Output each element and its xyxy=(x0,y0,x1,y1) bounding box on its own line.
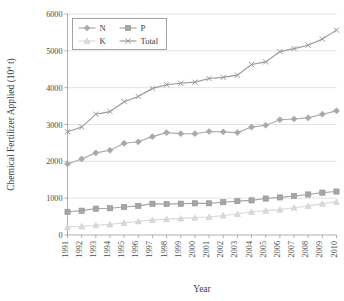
series-marker-N-1994 xyxy=(107,147,113,153)
series-marker-N-2002 xyxy=(220,129,226,135)
y-tick-label-4000: 4000 xyxy=(46,84,62,93)
series-marker-P-2000 xyxy=(192,201,197,206)
series-marker-P-2003 xyxy=(235,199,240,204)
series-marker-Total-2010 xyxy=(334,28,339,33)
y-axis-title: Chemical Fertilizer Applied (104 t) xyxy=(5,58,17,191)
series-marker-P-2006 xyxy=(277,195,282,200)
y-tick-label-3000: 3000 xyxy=(46,121,62,130)
y-tick-label-6000: 6000 xyxy=(46,10,62,19)
x-tick-label-1999: 1999 xyxy=(174,241,183,257)
series-marker-P-1998 xyxy=(164,201,169,206)
x-axis-title: Year xyxy=(193,284,211,294)
series-marker-P-2007 xyxy=(291,193,296,198)
x-tick-label-2008: 2008 xyxy=(301,241,310,257)
chemical-fertilizer-line-chart: 0100020003000400050006000 19911992199319… xyxy=(0,0,344,301)
x-tick-label-2005: 2005 xyxy=(259,241,268,257)
legend-label-P: P xyxy=(141,23,146,33)
y-tick-label-0: 0 xyxy=(58,231,62,240)
y-axis-title-text: Chemical Fertilizer Applied (104 t) xyxy=(5,58,17,191)
series-marker-P-2010 xyxy=(334,189,339,194)
legend-label-N: N xyxy=(100,23,107,33)
series-marker-P-2009 xyxy=(320,190,325,195)
legend-label-K: K xyxy=(100,36,107,46)
series-marker-N-1996 xyxy=(135,139,141,145)
y-tick-label-1000: 1000 xyxy=(46,194,62,203)
series-marker-P-1997 xyxy=(150,201,155,206)
series-N xyxy=(64,108,339,167)
y-tick-label-2000: 2000 xyxy=(46,157,62,166)
x-axis-tick-labels: 1991199219931994199519961997199819992000… xyxy=(61,241,339,257)
series-marker-N-2006 xyxy=(277,117,283,123)
series-marker-P-2002 xyxy=(221,200,226,205)
series-marker-N-1995 xyxy=(121,140,127,146)
x-tick-label-1994: 1994 xyxy=(103,241,112,257)
series-marker-N-2010 xyxy=(333,108,339,114)
x-tick-label-2009: 2009 xyxy=(315,241,324,257)
x-tick-label-2004: 2004 xyxy=(245,241,254,257)
y-tick-label-5000: 5000 xyxy=(46,47,62,56)
x-tick-label-1998: 1998 xyxy=(160,241,169,257)
data-series xyxy=(64,28,339,230)
series-marker-P-2008 xyxy=(306,192,311,197)
series-marker-N-2003 xyxy=(234,130,240,136)
x-tick-label-1996: 1996 xyxy=(131,241,140,257)
series-marker-P-2005 xyxy=(263,196,268,201)
series-P xyxy=(65,189,339,214)
series-marker-P-1992 xyxy=(79,208,84,213)
legend-label-Total: Total xyxy=(141,36,159,46)
x-tick-label-2007: 2007 xyxy=(287,241,296,257)
series-marker-N-2005 xyxy=(263,122,269,128)
x-tick-label-1995: 1995 xyxy=(117,241,126,257)
y-axis-title-tail: t) xyxy=(6,58,17,66)
series-marker-P-1993 xyxy=(93,206,98,211)
x-tick-label-2006: 2006 xyxy=(273,241,282,257)
series-marker-Total-1995 xyxy=(122,99,127,104)
x-tick-label-1993: 1993 xyxy=(89,241,98,257)
series-marker-N-1999 xyxy=(178,131,184,137)
chart-canvas: 0100020003000400050006000 19911992199319… xyxy=(0,0,344,301)
chart-legend[interactable]: NPKTotal xyxy=(73,19,167,50)
series-marker-P-1999 xyxy=(178,201,183,206)
series-marker-N-2000 xyxy=(192,131,198,137)
y-axis-title-base: Chemical Fertilizer Applied (10 xyxy=(6,69,17,190)
x-tick-label-2010: 2010 xyxy=(330,241,339,257)
series-marker-N-1991 xyxy=(64,161,70,167)
series-marker-P-1994 xyxy=(107,206,112,211)
series-marker-N-2004 xyxy=(248,124,254,130)
series-marker-N-2009 xyxy=(319,111,325,117)
y-axis-tick-labels: 0100020003000400050006000 xyxy=(46,10,62,240)
series-marker-P-1995 xyxy=(122,204,127,209)
series-marker-N-2001 xyxy=(206,128,212,134)
series-marker-P-2001 xyxy=(206,201,211,206)
x-tick-label-1997: 1997 xyxy=(145,241,154,257)
series-marker-N-1993 xyxy=(93,150,99,156)
series-marker-N-2007 xyxy=(291,116,297,122)
series-marker-N-1998 xyxy=(164,130,170,136)
series-marker-P-1991 xyxy=(65,209,70,214)
x-tick-label-1991: 1991 xyxy=(61,241,70,257)
x-tick-label-2002: 2002 xyxy=(216,241,225,257)
series-marker-Total-1996 xyxy=(136,94,141,99)
series-marker-N-2008 xyxy=(305,115,311,121)
series-marker-P-2004 xyxy=(249,198,254,203)
x-tick-label-2001: 2001 xyxy=(202,241,211,257)
series-marker-N-1997 xyxy=(149,134,155,140)
x-tick-label-2000: 2000 xyxy=(188,241,197,257)
series-marker-P-1996 xyxy=(136,203,141,208)
x-axis-title-text: Year xyxy=(193,284,211,294)
series-marker-Total-2009 xyxy=(320,36,325,41)
legend-marker-square-icon xyxy=(125,25,130,30)
x-tick-label-1992: 1992 xyxy=(75,241,84,257)
x-tick-label-2003: 2003 xyxy=(230,241,239,257)
